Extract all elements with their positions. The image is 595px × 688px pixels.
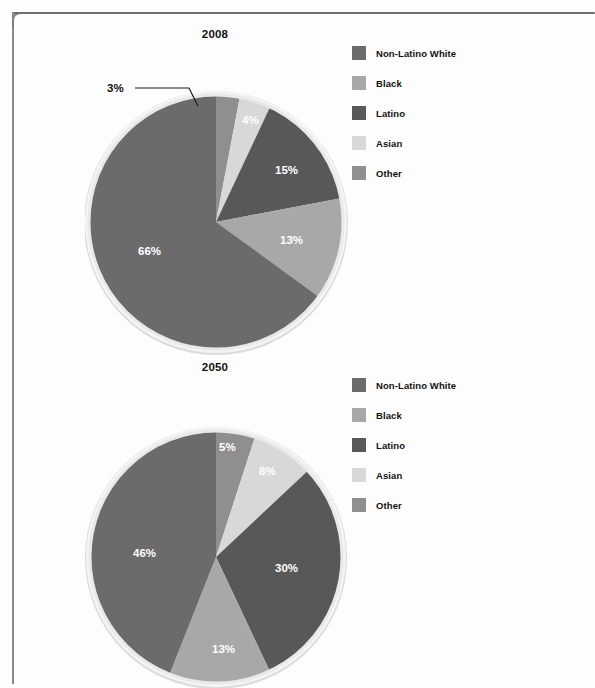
legend-swatch-asian [352,136,366,150]
legend-swatch-non-latino-white [352,378,366,392]
legend-label-asian: Asian [376,138,402,149]
slice-value-other: 5% [219,441,236,453]
legend-item-latino[interactable]: Latino [352,432,456,458]
legend-item-other[interactable]: Other [352,160,456,186]
legend-label-black: Black [376,78,402,89]
legend-item-other[interactable]: Other [352,492,456,518]
legend-item-non-latino-white[interactable]: Non-Latino White [352,372,456,398]
legend-label-black: Black [376,410,402,421]
legend-swatch-other [352,498,366,512]
pie-2008-svg: 3% 4% 15% 13% 66% [85,77,350,355]
legend-swatch-latino [352,106,366,120]
pie-chart-2050-block: 2050 5% [0,352,595,684]
pie-2050-svg: 5% 8% 30% 13% 46% [85,413,350,688]
legend-label-non-latino-white: Non-Latino White [376,48,456,59]
legend-item-black[interactable]: Black [352,70,456,96]
legend-label-non-latino-white: Non-Latino White [376,380,456,391]
slice-value-black: 13% [280,234,303,246]
slice-value-latino: 30% [275,562,298,574]
legend-item-asian[interactable]: Asian [352,130,456,156]
slice-value-white: 66% [138,245,161,257]
slice-value-black: 13% [212,643,235,655]
legend-label-other: Other [376,500,402,511]
chart-title-2050: 2050 [150,361,280,373]
slice-value-asian: 4% [242,114,259,126]
slice-value-white: 46% [133,547,156,559]
pie-chart-2008-block: 2008 [0,14,595,354]
legend-2050: Non-Latino White Black Latino Asian Othe… [352,372,456,522]
legend-label-latino: Latino [376,108,405,119]
slice-value-latino: 15% [275,164,298,176]
slice-value-asian: 8% [259,465,276,477]
legend-2008: Non-Latino White Black Latino Asian Othe… [352,40,456,190]
legend-swatch-other [352,166,366,180]
legend-swatch-black [352,408,366,422]
pie-2008-slices [85,91,348,355]
legend-swatch-black [352,76,366,90]
legend-swatch-asian [352,468,366,482]
slice-value-other: 3% [107,82,124,94]
legend-item-latino[interactable]: Latino [352,100,456,126]
legend-item-non-latino-white[interactable]: Non-Latino White [352,40,456,66]
legend-item-black[interactable]: Black [352,402,456,428]
pie-2050-wrapper: 5% 8% 30% 13% 46% [85,413,350,688]
legend-item-asian[interactable]: Asian [352,462,456,488]
legend-label-latino: Latino [376,440,405,451]
legend-swatch-latino [352,438,366,452]
pie-2008-wrapper: 3% 4% 15% 13% 66% [85,77,350,355]
legend-label-other: Other [376,168,402,179]
legend-swatch-non-latino-white [352,46,366,60]
legend-label-asian: Asian [376,470,402,481]
chart-title-2008: 2008 [150,28,280,40]
